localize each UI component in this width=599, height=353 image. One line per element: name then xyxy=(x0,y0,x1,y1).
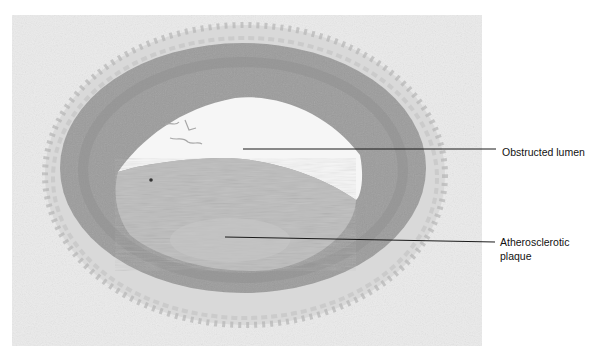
label-plaque-line-1: Atherosclerotic xyxy=(500,235,569,249)
label-obstructed-lumen: Obstructed lumen xyxy=(502,145,585,159)
label-plaque-line-2: plaque xyxy=(500,249,569,263)
label-obstructed-lumen-text: Obstructed lumen xyxy=(502,146,585,158)
label-atherosclerotic-plaque: Atherosclerotic plaque xyxy=(500,235,569,263)
artery-cross-section-image xyxy=(12,15,482,346)
histology-figure: Obstructed lumen Atherosclerotic plaque xyxy=(0,0,599,353)
artery-micrograph xyxy=(12,15,482,346)
